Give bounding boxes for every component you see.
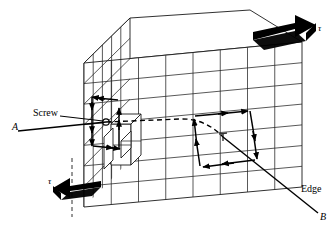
tau-bottom-label: τ (48, 177, 51, 186)
edge-label: Edge (301, 184, 322, 194)
screw-label: Screw (33, 108, 58, 118)
tau-top-label: τ (318, 24, 321, 33)
point-a-label: A (12, 122, 18, 132)
point-b-label: B (320, 212, 326, 222)
figure-root: Screw A Edge B τ τ (0, 0, 334, 233)
